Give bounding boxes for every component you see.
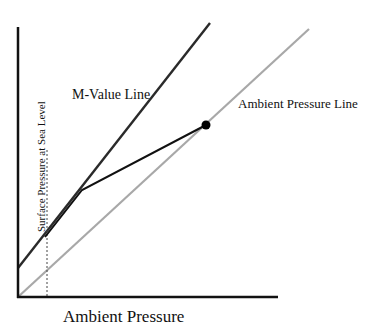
end-point-dot bbox=[202, 121, 211, 130]
ambient-pressure-line-label: Ambient Pressure Line bbox=[238, 96, 358, 111]
surface-pressure-label: Surface Pressure at Sea Level bbox=[35, 101, 47, 232]
profile-line bbox=[45, 125, 206, 237]
ambient-pressure-line bbox=[18, 29, 309, 297]
x-axis-label: Ambient Pressure bbox=[63, 307, 184, 326]
m-value-line-label: M-Value Line bbox=[72, 87, 150, 102]
diagram-canvas: M-Value Line Ambient Pressure Line Surfa… bbox=[0, 0, 377, 331]
pressure-diagram: M-Value Line Ambient Pressure Line Surfa… bbox=[0, 0, 377, 331]
